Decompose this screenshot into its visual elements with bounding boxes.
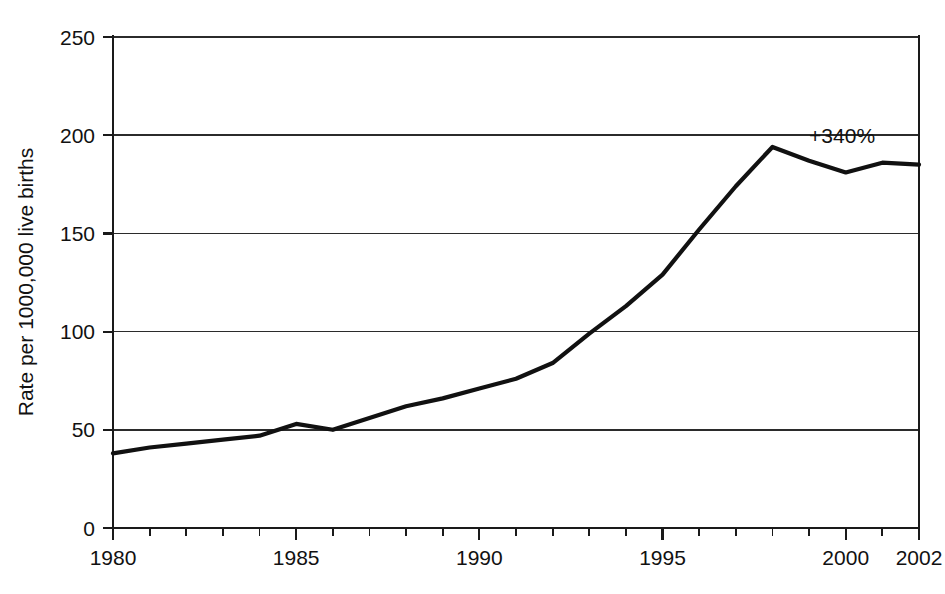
line-chart: 050100150200250 198019851990199520002002…	[0, 0, 945, 594]
y-tick-label-250: 250	[60, 26, 95, 49]
x-tick-label-2002: 2002	[896, 546, 943, 569]
figure-background	[0, 0, 945, 594]
x-tick-label-1980: 1980	[90, 546, 137, 569]
y-tick-label-0: 0	[83, 517, 95, 540]
percent-change-annotation: +340%	[809, 124, 875, 147]
y-tick-label-50: 50	[72, 418, 95, 441]
x-tick-label-1995: 1995	[639, 546, 686, 569]
y-tick-label-150: 150	[60, 222, 95, 245]
x-tick-label-2000: 2000	[822, 546, 869, 569]
y-tick-label-200: 200	[60, 124, 95, 147]
chart-figure: 050100150200250 198019851990199520002002…	[0, 0, 945, 594]
x-tick-label-1990: 1990	[456, 546, 503, 569]
y-axis-title: Rate per 1000,000 live births	[14, 148, 37, 417]
x-tick-label-1985: 1985	[273, 546, 320, 569]
y-tick-label-100: 100	[60, 320, 95, 343]
